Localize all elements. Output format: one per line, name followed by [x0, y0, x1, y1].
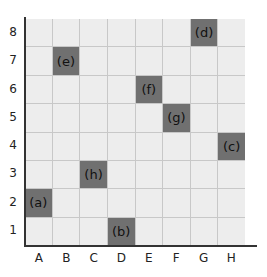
cell-label: (g)	[167, 110, 185, 125]
y-label-3: 3	[6, 166, 20, 180]
cell-label: (c)	[223, 139, 240, 154]
x-label-B: B	[53, 251, 80, 265]
cell-label: (e)	[57, 54, 75, 69]
x-axis-line	[24, 245, 257, 247]
grid-cell-G3	[191, 161, 218, 188]
x-label-C: C	[80, 251, 107, 265]
grid-cell-C3: (h)	[80, 161, 107, 188]
grid-cell-E1	[136, 218, 163, 245]
grid-cell-C1	[80, 218, 107, 245]
x-label-D: D	[108, 251, 135, 265]
grid-cell-A7	[25, 47, 52, 74]
grid-cell-H1	[218, 218, 245, 245]
grid-cell-G8: (d)	[191, 19, 218, 46]
grid-cell-B8	[53, 19, 80, 46]
grid-cell-A8	[25, 19, 52, 46]
grid-cell-G4	[191, 133, 218, 160]
y-axis-line	[24, 17, 26, 246]
grid-cell-D7	[108, 47, 135, 74]
cell-label: (f)	[141, 82, 156, 97]
grid-cell-F7	[163, 47, 190, 74]
y-label-5: 5	[6, 110, 20, 124]
grid-cell-B2	[53, 189, 80, 216]
grid-cell-A3	[25, 161, 52, 188]
grid-cell-F5: (g)	[163, 104, 190, 131]
grid-cell-E5	[136, 104, 163, 131]
grid-cell-G2	[191, 189, 218, 216]
grid-cell-B6	[53, 76, 80, 103]
grid-cell-E8	[136, 19, 163, 46]
grid-cell-B7: (e)	[53, 47, 80, 74]
y-label-6: 6	[6, 82, 20, 96]
grid-cell-F4	[163, 133, 190, 160]
y-label-1: 1	[6, 223, 20, 237]
grid-cell-E4	[136, 133, 163, 160]
cell-label: (d)	[195, 25, 213, 40]
grid-cell-D5	[108, 104, 135, 131]
grid-cell-F8	[163, 19, 190, 46]
grid-cell-A2: (a)	[25, 189, 52, 216]
grid-cell-F3	[163, 161, 190, 188]
grid-cell-A4	[25, 133, 52, 160]
grid-cell-A1	[25, 218, 52, 245]
grid-cell-C6	[80, 76, 107, 103]
grid-cell-E3	[136, 161, 163, 188]
grid-cell-H8	[218, 19, 245, 46]
grid-cell-B1	[53, 218, 80, 245]
y-label-7: 7	[6, 53, 20, 67]
grid-cell-G1	[191, 218, 218, 245]
grid-cell-H6	[218, 76, 245, 103]
grid-cell-B3	[53, 161, 80, 188]
grid-cell-D4	[108, 133, 135, 160]
cell-label: (a)	[29, 195, 47, 210]
x-label-G: G	[190, 251, 217, 265]
grid-cell-C8	[80, 19, 107, 46]
grid-cell-F2	[163, 189, 190, 216]
grid-cell-F1	[163, 218, 190, 245]
x-label-H: H	[218, 251, 245, 265]
grid-cell-G6	[191, 76, 218, 103]
grid-cell-H2	[218, 189, 245, 216]
grid-cell-E7	[136, 47, 163, 74]
grid-cell-D3	[108, 161, 135, 188]
grid-cell-A6	[25, 76, 52, 103]
grid-cell-G7	[191, 47, 218, 74]
x-label-A: A	[25, 251, 52, 265]
grid-cell-G5	[191, 104, 218, 131]
x-label-F: F	[163, 251, 190, 265]
grid-cell-H3	[218, 161, 245, 188]
y-label-4: 4	[6, 138, 20, 152]
grid-cell-F6	[163, 76, 190, 103]
grid-cell-D8	[108, 19, 135, 46]
x-label-E: E	[135, 251, 162, 265]
grid-cell-D6	[108, 76, 135, 103]
coordinate-grid: (d)(e)(f)(g)(c)(h)(a)(b)	[25, 19, 245, 245]
grid-cell-E2	[136, 189, 163, 216]
grid-cell-C7	[80, 47, 107, 74]
y-label-8: 8	[6, 25, 20, 39]
grid-cell-E6: (f)	[136, 76, 163, 103]
grid-cell-C4	[80, 133, 107, 160]
grid-cell-H5	[218, 104, 245, 131]
cell-label: (h)	[84, 167, 102, 182]
grid-cell-A5	[25, 104, 52, 131]
grid-cell-D2	[108, 189, 135, 216]
grid-cell-C5	[80, 104, 107, 131]
grid-cell-H4: (c)	[218, 133, 245, 160]
cell-label: (b)	[112, 224, 130, 239]
grid-cell-H7	[218, 47, 245, 74]
grid-cell-B4	[53, 133, 80, 160]
grid-cell-D1: (b)	[108, 218, 135, 245]
grid-cell-B5	[53, 104, 80, 131]
y-label-2: 2	[6, 195, 20, 209]
grid-cell-C2	[80, 189, 107, 216]
